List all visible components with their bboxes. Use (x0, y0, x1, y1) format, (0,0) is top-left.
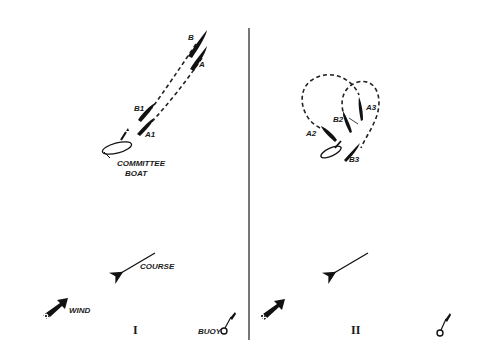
panel-2: A2 B2 A3 B3 (260, 75, 451, 337)
race-diagram: B A B1 A1 COMMITTEE BOAT COURS (0, 0, 483, 362)
boat-b3: B3 (344, 143, 360, 164)
boat-b1-label: B1 (134, 104, 145, 113)
buoy-icon: BUOY (198, 312, 236, 336)
buoy-icon-2 (437, 313, 451, 336)
panel-numeral-2: II (351, 323, 361, 337)
course-label: COURSE (140, 262, 175, 271)
track-a2-loop (302, 75, 359, 128)
boat-a2-label: A2 (305, 129, 317, 138)
panel-1: B A B1 A1 COMMITTEE BOAT COURS (43, 30, 236, 337)
boat-a3: A3 (359, 97, 377, 121)
buoy-label: BUOY (198, 327, 222, 336)
wind-label: WIND (69, 306, 91, 315)
panel-numeral-1: I (133, 323, 138, 337)
boat-a1-label: A1 (144, 130, 156, 139)
committee-boat-label-line1: COMMITTEE (117, 159, 166, 168)
boat-b2-label: B2 (333, 115, 344, 124)
committee-boat-2 (319, 141, 342, 160)
committee-boat: COMMITTEE BOAT (101, 128, 165, 178)
boat-b2: B2 (333, 111, 358, 133)
boat-a3-label: A3 (365, 103, 377, 112)
boat-b-label: B (188, 33, 194, 42)
wind-arrow-icon-2 (260, 299, 285, 320)
boat-b3-label: B3 (349, 155, 360, 164)
boat-a-label: A (198, 60, 205, 69)
committee-boat-label-line2: BOAT (125, 169, 148, 178)
boat-b1: B1 (134, 103, 155, 122)
course-arrow-2 (334, 253, 368, 273)
boat-a2: A2 (305, 126, 337, 142)
course-arrow: COURSE (121, 253, 175, 273)
wind-arrow-icon: WIND (43, 298, 91, 319)
